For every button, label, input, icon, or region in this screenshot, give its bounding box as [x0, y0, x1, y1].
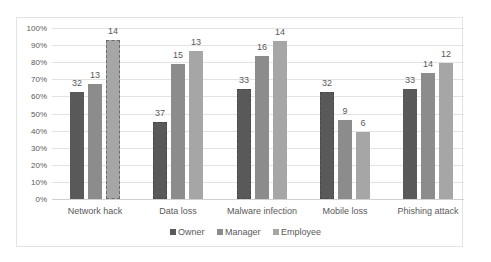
bar-employee[interactable]: [106, 40, 120, 199]
data-label: 12: [434, 49, 458, 59]
data-label: 32: [65, 78, 89, 88]
bar-manager[interactable]: [255, 56, 269, 199]
data-label: 13: [83, 70, 107, 80]
y-tick-label: 70%: [14, 75, 47, 84]
bar-owner[interactable]: [403, 89, 417, 199]
x-tick-label: Phishing attack: [383, 206, 473, 216]
legend-item-manager[interactable]: Manager: [217, 227, 261, 237]
bar-owner[interactable]: [320, 92, 334, 199]
y-tick-label: 100%: [14, 24, 47, 33]
employee-swatch-icon: [273, 229, 279, 235]
data-label: 9: [333, 106, 357, 116]
y-tick-label: 40%: [14, 126, 47, 135]
data-label: 16: [250, 42, 274, 52]
bar-manager[interactable]: [88, 84, 102, 199]
data-label: 14: [416, 59, 440, 69]
bar-owner[interactable]: [153, 122, 167, 199]
bar-owner[interactable]: [237, 89, 251, 199]
y-tick-label: 50%: [14, 109, 47, 118]
y-tick-label: 30%: [14, 143, 47, 152]
bar-manager[interactable]: [171, 64, 185, 199]
owner-swatch-icon: [170, 229, 176, 235]
data-label: 13: [184, 37, 208, 47]
data-label: 14: [101, 26, 125, 36]
data-label: 6: [351, 118, 375, 128]
data-label: 32: [315, 78, 339, 88]
bar-manager[interactable]: [338, 120, 352, 199]
bar-employee[interactable]: [439, 63, 453, 199]
x-tick-label: Network hack: [50, 206, 140, 216]
bar-owner[interactable]: [70, 92, 84, 199]
gridline: [52, 199, 464, 200]
y-tick-label: 20%: [14, 160, 47, 169]
plot-area: 3213143715133316143296331412: [52, 28, 464, 199]
x-tick-label: Data loss: [133, 206, 223, 216]
y-tick-label: 90%: [14, 41, 47, 50]
bar-employee[interactable]: [356, 132, 370, 199]
manager-swatch-icon: [217, 229, 223, 235]
data-label: 37: [148, 108, 172, 118]
bar-employee[interactable]: [189, 51, 203, 199]
x-tick-label: Mobile loss: [300, 206, 390, 216]
legend-item-employee[interactable]: Employee: [273, 227, 321, 237]
legend-item-owner[interactable]: Owner: [170, 227, 205, 237]
data-label: 33: [232, 75, 256, 85]
data-label: 14: [268, 27, 292, 37]
data-label: 15: [166, 50, 190, 60]
bar-manager[interactable]: [421, 73, 435, 199]
y-tick-label: 10%: [14, 177, 47, 186]
y-tick-label: 0%: [14, 195, 47, 204]
data-label: 33: [398, 75, 422, 85]
x-tick-label: Malware infection: [217, 206, 307, 216]
bar-employee[interactable]: [273, 41, 287, 199]
y-tick-label: 80%: [14, 58, 47, 67]
legend: Owner Manager Employee: [0, 227, 491, 237]
y-tick-label: 60%: [14, 92, 47, 101]
